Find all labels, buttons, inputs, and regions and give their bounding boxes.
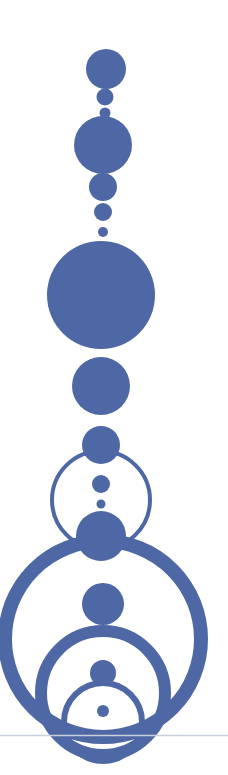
- disc-14-ring1-center: [82, 583, 124, 625]
- disc-13: [76, 511, 126, 561]
- disc-10: [82, 426, 120, 464]
- disc-05: [89, 173, 117, 201]
- disc-04-large: [74, 116, 132, 174]
- disc-07-small: [98, 227, 108, 237]
- disc-12-tiny: [97, 500, 106, 509]
- disc-08-largest: [47, 241, 155, 349]
- disc-06: [94, 203, 112, 221]
- disc-02: [97, 89, 114, 106]
- disc-15-ring2-center: [90, 660, 116, 686]
- disc-09: [72, 357, 130, 415]
- artwork-canvas: [0, 0, 228, 775]
- circle-totem-illustration: [0, 0, 228, 775]
- disc-11: [92, 475, 110, 493]
- disc-01-top: [86, 49, 126, 89]
- disc-16-ring3-center: [97, 705, 109, 717]
